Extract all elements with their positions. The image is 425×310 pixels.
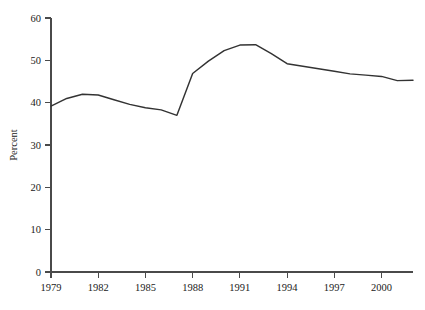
data-line <box>51 45 413 116</box>
x-tick-group: 19791982198519881991199419972000 <box>41 272 393 293</box>
y-tick-group: 0102030405060 <box>31 13 52 278</box>
chart-canvas: 0102030405060 19791982198519881991199419… <box>0 0 425 310</box>
y-axis: 0102030405060 <box>31 13 52 278</box>
x-tick-label: 1979 <box>41 282 62 293</box>
y-tick-label: 40 <box>31 97 42 108</box>
y-tick-label: 20 <box>31 182 42 193</box>
line-chart: 0102030405060 19791982198519881991199419… <box>0 0 425 310</box>
x-tick-label: 1997 <box>324 282 345 293</box>
y-tick-label: 0 <box>36 267 41 278</box>
data-series-group <box>51 45 413 116</box>
x-tick-label: 1985 <box>135 282 156 293</box>
y-tick-label: 60 <box>31 13 42 24</box>
y-tick-label: 50 <box>31 55 42 66</box>
y-axis-title: Percent <box>8 129 19 161</box>
x-tick-label: 1988 <box>182 282 203 293</box>
x-tick-label: 1994 <box>277 282 299 293</box>
y-tick-label: 10 <box>31 224 42 235</box>
x-axis: 19791982198519881991199419972000 <box>41 272 414 293</box>
x-tick-label: 1982 <box>88 282 109 293</box>
y-tick-label: 30 <box>31 140 42 151</box>
x-tick-label: 2000 <box>371 282 392 293</box>
x-tick-label: 1991 <box>229 282 250 293</box>
